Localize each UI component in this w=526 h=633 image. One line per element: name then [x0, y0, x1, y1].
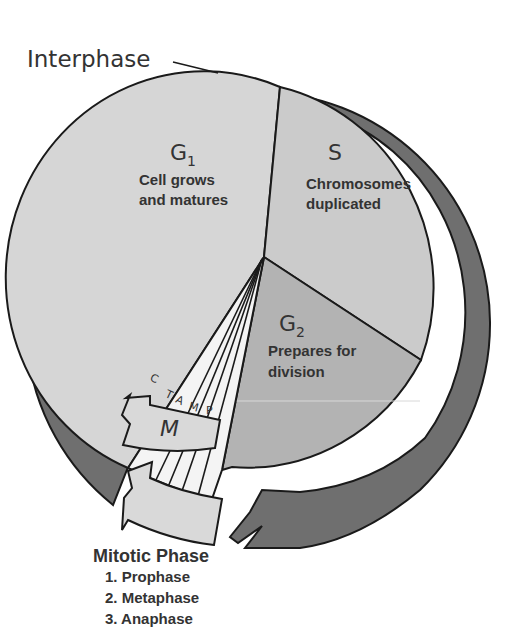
mitotic-phase-item-1: 1. Prophase [105, 568, 190, 585]
substage-letter-p: P [206, 404, 213, 417]
mitotic-phase-item-2: 2. Metaphase [105, 589, 199, 606]
g1-desc-line2: and matures [139, 191, 228, 208]
g2-desc-line1: Prepares for [268, 342, 357, 359]
interphase-label-group: Interphase [27, 46, 218, 73]
s-desc-line1: Chromosomes [306, 175, 411, 192]
s-desc-line2: duplicated [306, 195, 381, 212]
m-phase-label: M [160, 416, 179, 441]
s-label: S [328, 140, 342, 165]
mitotic-phase-list: Mitotic Phase 1. Prophase 2. Metaphase 3… [93, 546, 209, 627]
mitotic-phase-title: Mitotic Phase [93, 546, 209, 566]
cell-cycle-diagram: C T A M P M Interphase G1 Cell grows and… [0, 0, 526, 633]
interphase-label: Interphase [27, 46, 150, 72]
g1-desc-line1: Cell grows [139, 171, 215, 188]
g2-desc-line2: division [268, 363, 325, 380]
mitotic-phase-item-3: 3. Anaphase [105, 610, 193, 627]
